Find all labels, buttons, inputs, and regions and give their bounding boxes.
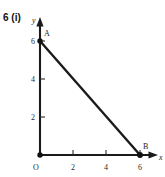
- y-tick-label-4: 4: [31, 75, 35, 84]
- y-tick-label-2: 2: [31, 113, 35, 122]
- x-tick-label-4: 4: [104, 163, 108, 172]
- y-axis-label: y: [31, 16, 36, 25]
- x-tick-label-2: 2: [71, 163, 75, 172]
- y-tick-label-6: 6: [31, 37, 35, 46]
- figure-container: 6 (i) y x: [0, 0, 165, 177]
- coordinate-plot: y x 2 4 6 2 4 6 O A B: [0, 0, 165, 177]
- point-o-marker: [37, 152, 42, 157]
- segment-ab: [40, 41, 140, 155]
- point-a-marker: [37, 38, 42, 43]
- x-tick-label-6: 6: [138, 163, 142, 172]
- point-a-label: A: [44, 29, 50, 38]
- point-b-marker: [137, 152, 143, 158]
- origin-label: O: [33, 163, 39, 172]
- x-axis-label: x: [158, 153, 163, 162]
- y-axis: [36, 17, 43, 155]
- point-b-label: B: [143, 142, 148, 151]
